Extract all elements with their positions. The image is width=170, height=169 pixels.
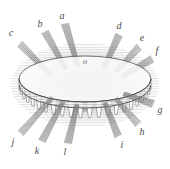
radial-diagram [0,0,170,169]
figure-container: a b c d e f g h i j k l o o [0,0,170,169]
